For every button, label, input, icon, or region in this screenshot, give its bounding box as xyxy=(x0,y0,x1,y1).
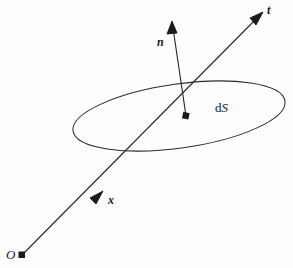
tangent-vector-label: t xyxy=(267,4,270,16)
origin-point-marker xyxy=(19,252,26,259)
normal-vector-label: n xyxy=(157,36,164,48)
position-arrowhead xyxy=(90,191,103,204)
area-element-s: S xyxy=(222,100,229,115)
figure-canvas: O x t n dS xyxy=(0,0,293,268)
normal-arrowhead xyxy=(167,21,177,34)
surface-element-ellipse xyxy=(69,69,290,162)
diagram-graphics xyxy=(0,0,293,268)
normal-vector-line xyxy=(173,28,186,116)
position-vector-label: x xyxy=(108,194,114,206)
surface-point-marker xyxy=(182,112,190,120)
area-element-label: dS xyxy=(215,101,228,114)
origin-label: O xyxy=(6,248,15,261)
position-tangent-ray xyxy=(22,17,258,255)
